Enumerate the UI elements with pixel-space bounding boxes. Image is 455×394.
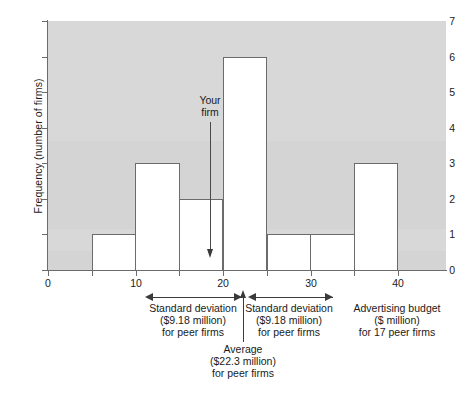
x-tick-label-20: 20 — [203, 278, 243, 289]
sd-right-caption-line3: for peer firms — [233, 326, 345, 338]
your-firm-arrow-head — [207, 249, 213, 258]
y-tick-label-6: 6 — [431, 52, 455, 63]
y-axis-line — [47, 20, 48, 271]
y-tick-label-0: 0 — [431, 265, 455, 276]
histogram-figure: Frequency (number of firms) 0 1 2 3 4 5 … — [0, 0, 455, 394]
sd-right-caption: Standard deviation ($9.18 million) for p… — [233, 302, 345, 339]
x-tick-30 — [311, 271, 312, 276]
y-tick-4 — [42, 128, 47, 129]
histogram-bar-25-30 — [267, 234, 311, 271]
sd-right-span-line — [255, 297, 333, 298]
average-marker-stem — [243, 298, 244, 342]
y-tick-3 — [42, 163, 47, 164]
x-axis-title: Advertising budget ($ million) for 17 pe… — [343, 302, 451, 339]
x-tick-label-0: 0 — [28, 278, 68, 289]
sd-left-caption-line2: ($9.18 million) — [138, 314, 248, 326]
sd-left-caption: Standard deviation ($9.18 million) for p… — [138, 302, 248, 339]
x-tick-0 — [48, 271, 49, 276]
sd-left-span-line — [152, 297, 241, 298]
average-caption: Average ($22.3 million) for peer firms — [188, 343, 298, 380]
your-firm-label-line2: firm — [201, 106, 219, 118]
histogram-bar-5-10 — [92, 234, 136, 271]
sd-left-caption-line1: Standard deviation — [138, 302, 248, 314]
y-tick-1 — [42, 234, 47, 235]
y-tick-5 — [42, 92, 47, 93]
x-tick-10 — [136, 271, 137, 276]
x-axis-title-line2: ($ million) — [343, 314, 451, 326]
x-tick-label-40: 40 — [378, 278, 418, 289]
sd-right-caption-line1: Standard deviation — [233, 302, 345, 314]
y-tick-label-2: 2 — [431, 194, 455, 205]
y-tick-label-7: 7 — [431, 16, 455, 27]
x-axis-title-line3: for 17 peer firms — [343, 326, 451, 338]
x-axis-title-line1: Advertising budget — [343, 302, 451, 314]
x-tick-minor-35 — [354, 271, 355, 276]
y-tick-label-1: 1 — [431, 229, 455, 240]
histogram-bar-30-35 — [310, 234, 354, 271]
histogram-bar-20-25 — [223, 57, 267, 271]
y-tick-2 — [42, 199, 47, 200]
histogram-bar-15-20 — [179, 199, 223, 271]
sd-right-arrowhead-end — [325, 293, 333, 301]
x-tick-label-30: 30 — [291, 278, 331, 289]
average-caption-line1: Average — [188, 343, 298, 355]
sd-right-caption-line2: ($9.18 million) — [233, 314, 345, 326]
average-caption-line3: for peer firms — [188, 367, 298, 379]
x-tick-minor-5 — [92, 271, 93, 276]
x-tick-minor-15 — [179, 271, 180, 276]
x-tick-40 — [398, 271, 399, 276]
sd-left-caption-line3: for peer firms — [138, 326, 248, 338]
x-tick-minor-25 — [267, 271, 268, 276]
your-firm-arrow-stem — [210, 122, 211, 250]
average-caption-line2: ($22.3 million) — [188, 355, 298, 367]
x-tick-20 — [223, 271, 224, 276]
y-tick-label-3: 3 — [431, 158, 455, 169]
x-tick-label-10: 10 — [116, 278, 156, 289]
your-firm-label-line1: Your — [199, 94, 220, 106]
histogram-bar-10-15 — [135, 163, 179, 271]
your-firm-label: Your firm — [178, 95, 242, 118]
average-arrow-head — [240, 290, 246, 298]
y-tick-6 — [42, 57, 47, 58]
y-tick-0 — [42, 270, 47, 271]
y-tick-label-4: 4 — [431, 123, 455, 134]
y-tick-7 — [42, 21, 47, 22]
y-axis-title: Frequency (number of firms) — [32, 26, 44, 266]
histogram-bar-35-40 — [354, 163, 398, 271]
y-tick-label-5: 5 — [431, 87, 455, 98]
